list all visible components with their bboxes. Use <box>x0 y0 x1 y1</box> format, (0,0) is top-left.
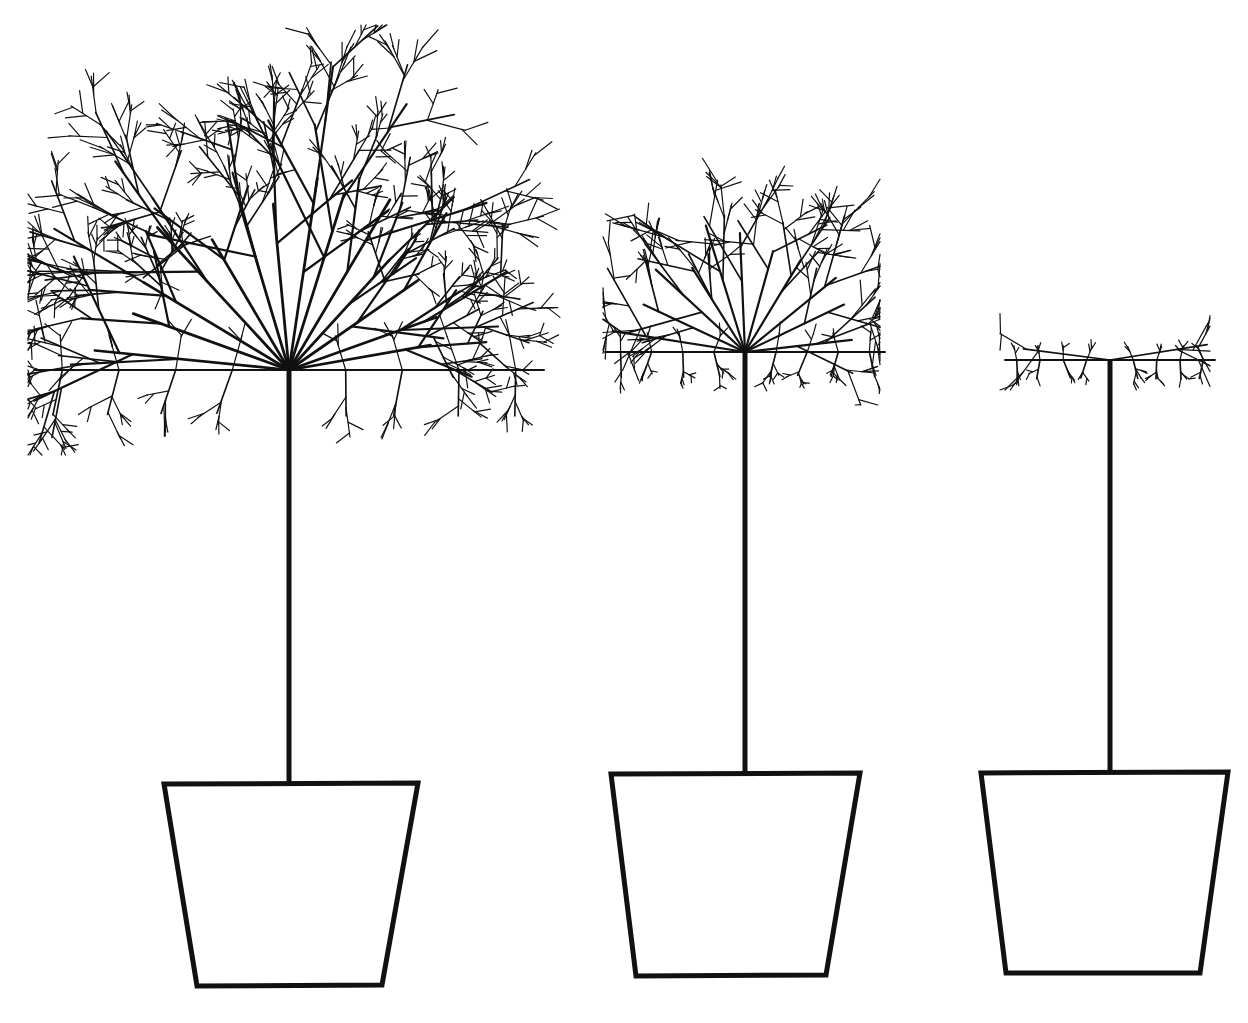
tree-small <box>981 314 1228 973</box>
potted-trees-illustration <box>0 0 1248 1023</box>
tree-large-crown <box>28 25 560 455</box>
tree-large-pot <box>164 783 418 986</box>
tree-large <box>28 25 560 986</box>
tree-medium-pot <box>611 773 860 976</box>
tree-small-pot <box>981 772 1228 973</box>
tree-medium <box>603 158 885 976</box>
